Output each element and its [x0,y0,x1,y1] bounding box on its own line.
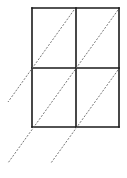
grid-lines [32,8,119,127]
diagonal-dashed-lines [8,10,118,163]
diagonal-line-3 [51,70,118,163]
diagonal-line-1 [8,10,74,102]
lattice-grid-canvas [0,0,127,178]
diagonal-line-2 [8,10,118,163]
lattice-grid-diagram [0,0,127,178]
